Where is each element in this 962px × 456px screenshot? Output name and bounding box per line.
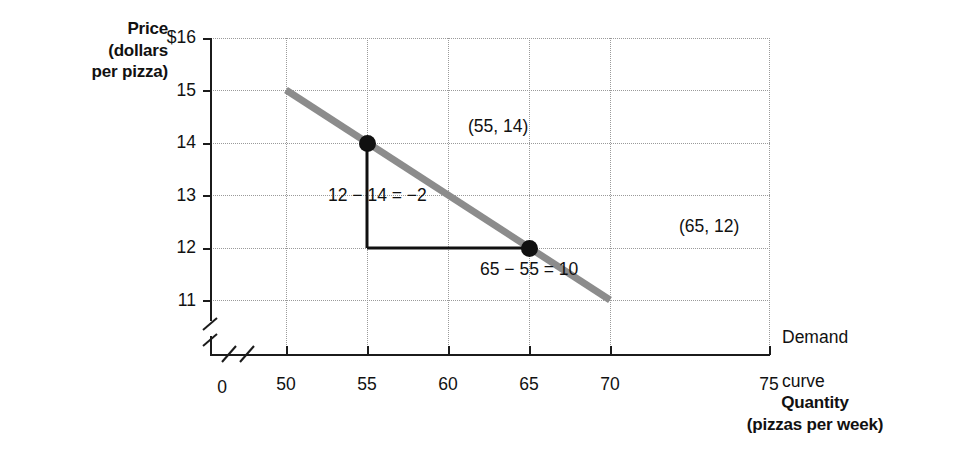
demand-curve-label-line2: curve bbox=[782, 370, 848, 392]
demand-curve-label: Demand curve bbox=[782, 304, 848, 414]
y-axis-title: Price (dollars per pizza) bbox=[0, 18, 168, 83]
data-point-55-14[interactable] bbox=[359, 135, 376, 152]
point-label-65-12: (65, 12) bbox=[679, 216, 739, 236]
rise-annotation: 12 − 14 = −2 bbox=[328, 185, 427, 205]
point-label-55-14: (55, 14) bbox=[468, 116, 528, 136]
data-point-65-12[interactable] bbox=[521, 240, 538, 257]
y-tick-label-15: 15 bbox=[152, 81, 196, 99]
demand-curve-label-line1: Demand bbox=[782, 326, 848, 348]
y-axis-title-line2: (dollars bbox=[0, 40, 168, 62]
x-tick-label-50: 50 bbox=[261, 375, 311, 393]
x-tick-label-60: 60 bbox=[423, 375, 473, 393]
y-tick-label-14: 14 bbox=[152, 133, 196, 151]
x-tick-label-55: 55 bbox=[342, 375, 392, 393]
y-tick-label-12: 12 bbox=[152, 238, 196, 256]
slope-bracket bbox=[211, 38, 771, 358]
demand-curve-figure: Price (dollars per pizza) Quantity (pizz… bbox=[0, 0, 962, 456]
y-tick-label-11: 11 bbox=[152, 291, 196, 309]
origin-label: 0 bbox=[183, 377, 227, 398]
y-tick-label-13: 13 bbox=[152, 186, 196, 204]
x-axis-title-line2: (pizzas per week) bbox=[690, 414, 940, 436]
y-axis-title-line3: per pizza) bbox=[0, 61, 168, 83]
x-tick-label-65: 65 bbox=[504, 375, 554, 393]
x-tick-label-70: 70 bbox=[585, 375, 635, 393]
y-tick-label-16: $16 bbox=[152, 28, 196, 46]
run-annotation: 65 − 55 = 10 bbox=[480, 259, 578, 279]
y-axis-title-line1: Price bbox=[0, 18, 168, 40]
